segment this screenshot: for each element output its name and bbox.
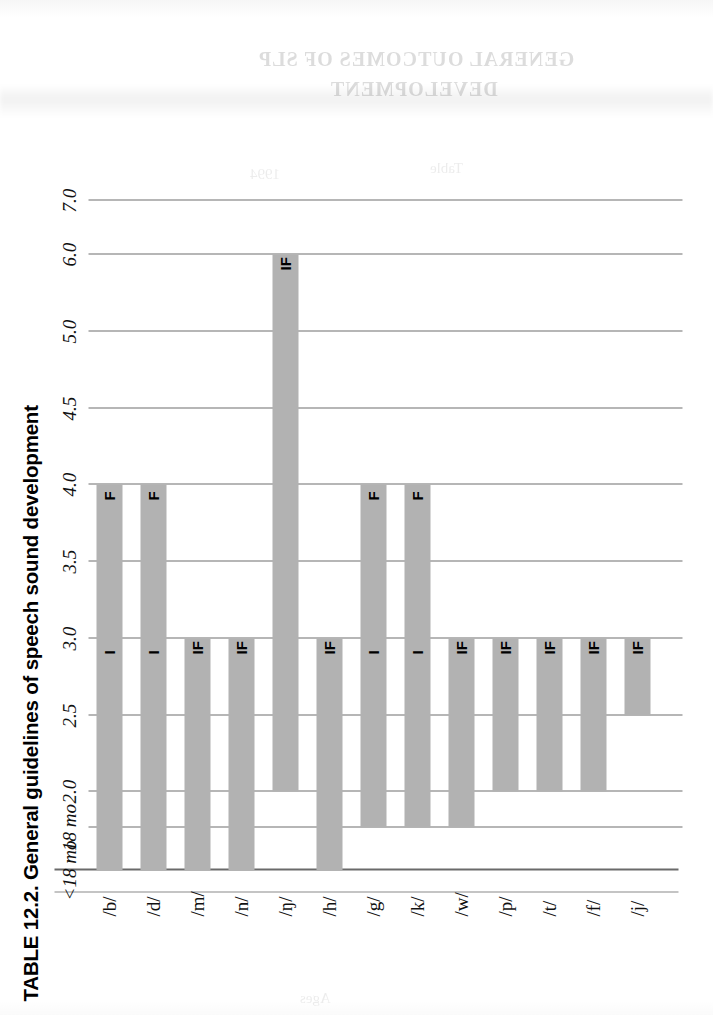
axis-tick-label: 2.0 <box>58 779 80 803</box>
axis-tick-label: 3.0 <box>58 626 80 650</box>
table-figure: TABLE 12.2. General guidelines of speech… <box>0 0 713 1015</box>
bar-mark: IF <box>542 641 557 654</box>
bar <box>140 484 166 870</box>
bar-mark: IF <box>586 641 601 654</box>
figure-title: TABLE 12.2. General guidelines of speech… <box>18 405 42 1001</box>
category-label: /f/ <box>582 899 604 916</box>
axis-tick-label: 6.0 <box>58 242 80 266</box>
bar-mark: IF <box>322 641 337 654</box>
plot-area: <18 mo18 mo2.02.53.03.54.04.55.06.07.0 I… <box>88 158 682 870</box>
bar-row: IF/w/ <box>448 158 474 870</box>
bar-row: IF/p/ <box>492 158 518 870</box>
bar-row: IF/k/ <box>404 158 430 870</box>
axis-tick-label: 4.0 <box>58 472 80 496</box>
category-label: /n/ <box>230 896 252 916</box>
category-label: /j/ <box>626 900 648 916</box>
axis-spine-outer <box>54 891 678 892</box>
axis-tick-label: 7.0 <box>58 188 80 212</box>
bar-row: IF/g/ <box>360 158 386 870</box>
bar-mark: IF <box>190 641 205 654</box>
bar-row: IF/d/ <box>140 158 166 870</box>
bar-mark: I <box>102 650 117 654</box>
bar <box>492 638 518 791</box>
axis-tick-label: 3.5 <box>58 549 80 573</box>
bar <box>360 484 386 827</box>
figure-canvas: TABLE 12.2. General guidelines of speech… <box>0 0 713 1015</box>
bar-mark: F <box>146 491 161 500</box>
bar-mark: I <box>366 650 381 654</box>
bar <box>184 638 210 870</box>
bar-mark: F <box>366 491 381 500</box>
category-label: /b/ <box>98 896 120 916</box>
bar-row: IF/t/ <box>536 158 562 870</box>
bar-mark: IF <box>498 641 513 654</box>
bar-row: IF/b/ <box>96 158 122 870</box>
bar <box>580 638 606 791</box>
bar-row: IF/h/ <box>316 158 342 870</box>
axis-tick-label: 18 mo <box>58 804 80 851</box>
category-label: /k/ <box>406 896 428 916</box>
bar <box>536 638 562 791</box>
bar <box>316 638 342 870</box>
category-label: /ŋ/ <box>274 896 296 916</box>
bar <box>228 638 254 870</box>
bar <box>96 484 122 870</box>
bar <box>448 638 474 827</box>
bar-row: IF/m/ <box>184 158 210 870</box>
bar <box>272 254 298 791</box>
bar-row: IF/f/ <box>580 158 606 870</box>
bar-row: IF/ŋ/ <box>272 158 298 870</box>
bar-mark: F <box>410 491 425 500</box>
bar-mark: IF <box>278 257 293 270</box>
axis-tick-label: 4.5 <box>58 396 80 420</box>
category-label: /p/ <box>494 896 516 916</box>
category-label: /h/ <box>318 896 340 916</box>
bar-row: IF/n/ <box>228 158 254 870</box>
category-label: /w/ <box>450 892 472 916</box>
axis-tick-label: 2.5 <box>58 703 80 727</box>
bar-mark: IF <box>630 641 645 654</box>
bar-mark: IF <box>234 641 249 654</box>
bar-mark: F <box>102 491 117 500</box>
bar-row: IF/j/ <box>624 158 650 870</box>
bar-mark: I <box>410 650 425 654</box>
bar-mark: IF <box>454 641 469 654</box>
bar-mark: I <box>146 650 161 654</box>
category-label: /t/ <box>538 900 560 916</box>
category-label: /m/ <box>186 891 208 916</box>
category-label: /g/ <box>362 896 384 916</box>
axis-tick-label: 5.0 <box>58 319 80 343</box>
bar <box>404 484 430 827</box>
category-label: /d/ <box>142 896 164 916</box>
